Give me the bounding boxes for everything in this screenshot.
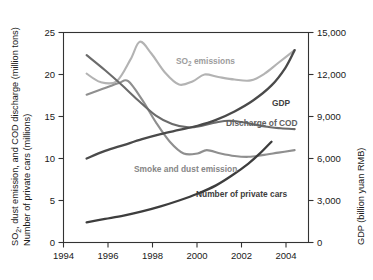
x-tick-label-2000: 2000	[186, 250, 207, 261]
x-axis-ticks: 1994 1996 1998 2000 2002 2004	[53, 243, 297, 262]
y-axis-title-left-line2: Number of private cars (millions)	[22, 114, 32, 246]
y-tick-label-0: 0	[50, 237, 55, 248]
y-axis-right-ticks: 15,000 12,000 9,000 6,000 3,000 0	[309, 27, 347, 248]
x-tick-label-2004: 2004	[275, 250, 296, 261]
y-tick-label-25: 25	[44, 27, 55, 38]
smoke-and-dust-emission-label: Smoke and dust emission	[134, 164, 237, 174]
y-axis-title-left: SO2, dust emission, and COD discharge (m…	[10, 27, 32, 246]
y-axis-title-left-line1: SO2, dust emission, and COD discharge (m…	[10, 27, 22, 246]
y-axis-title-right: GDP (billion yuan RMB)	[356, 148, 366, 245]
x-tick-label-2002: 2002	[231, 250, 252, 261]
line-chart-svg: SO2, dust emission, and COD discharge (m…	[0, 0, 373, 280]
gdp-label: GDP	[272, 98, 291, 108]
so2-emissions-label: SO2 emissions	[176, 56, 235, 67]
y-tick-label-5: 5	[50, 195, 55, 206]
number-of-private-cars-label: Number of private cars	[196, 189, 288, 199]
y2-tick-label-0: 0	[317, 237, 322, 248]
y2-tick-label-6000: 6,000	[317, 153, 341, 164]
x-tick-label-1998: 1998	[142, 250, 163, 261]
y2-tick-label-9000: 9,000	[317, 111, 341, 122]
x-tick-label-1996: 1996	[97, 250, 118, 261]
x-tick-label-1994: 1994	[53, 250, 74, 261]
y-tick-label-15: 15	[44, 111, 55, 122]
y-tick-label-20: 20	[44, 69, 55, 80]
y-axis-left-ticks: 25 20 15 10 5 0	[44, 27, 63, 248]
y-tick-label-10: 10	[44, 153, 55, 164]
y2-tick-label-3000: 3,000	[317, 195, 341, 206]
y2-tick-label-12000: 12,000	[317, 69, 346, 80]
discharge-of-cod-label: Discharge of COD	[226, 118, 298, 128]
series-line-number-of-private-cars	[87, 142, 272, 223]
chart-figure: SO2, dust emission, and COD discharge (m…	[0, 0, 373, 280]
y2-tick-label-15000: 15,000	[317, 27, 346, 38]
